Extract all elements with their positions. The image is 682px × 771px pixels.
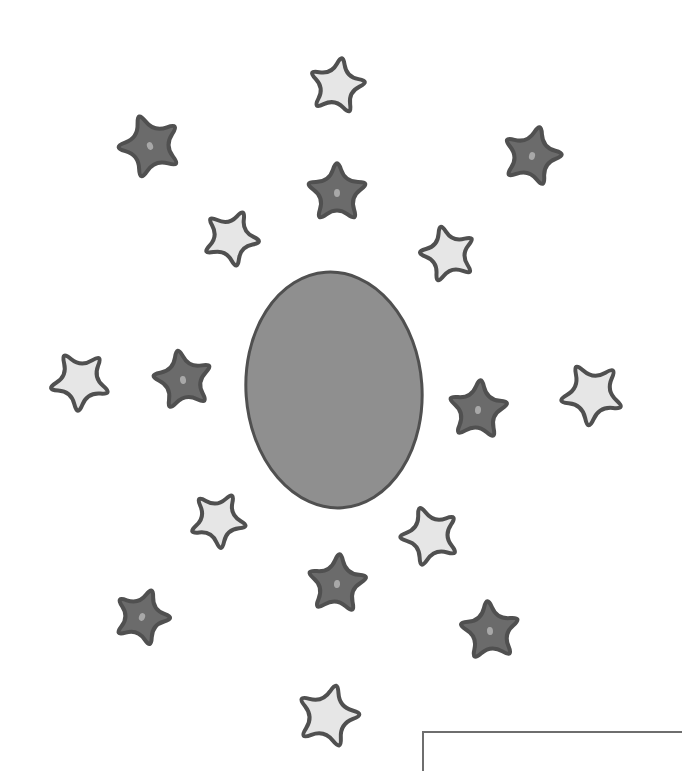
light-star-icon: [292, 678, 365, 749]
star-shape: [393, 498, 465, 568]
dark-star-icon: [109, 581, 177, 647]
dark-star-icon: [498, 120, 567, 187]
dark-star-icon: [307, 552, 368, 611]
light-star-icon: [550, 352, 630, 431]
dark-star-icon: [459, 599, 520, 658]
light-star-icon: [415, 220, 480, 283]
light-star-icon: [307, 54, 369, 114]
dark-star-icon: [448, 378, 509, 437]
star-shape: [43, 340, 121, 418]
star-shape: [183, 482, 255, 553]
light-star-icon: [197, 201, 267, 270]
dark-star-icon: [309, 163, 366, 217]
light-star-icon: [393, 498, 465, 568]
partial-frame-box: [422, 731, 682, 771]
star-center-dot: [334, 189, 340, 197]
light-star-icon: [43, 340, 121, 418]
center-oval: [238, 266, 430, 514]
star-shape: [307, 54, 369, 114]
star-shape: [550, 352, 630, 431]
dark-star-icon: [111, 106, 187, 180]
star-shape: [415, 220, 480, 283]
star-shape: [197, 201, 267, 270]
light-star-icon: [183, 482, 255, 553]
dark-star-icon: [150, 346, 215, 409]
star-shape: [292, 678, 365, 749]
